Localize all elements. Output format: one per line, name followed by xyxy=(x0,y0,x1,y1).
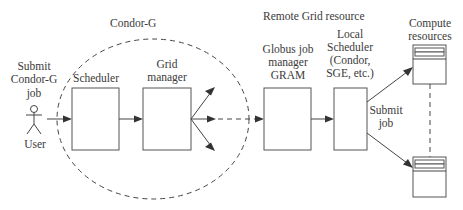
condor-g-label: Condor-G xyxy=(110,17,156,29)
globus-label-2: manager xyxy=(268,56,308,69)
globus-label: Globus job xyxy=(263,43,314,56)
globus-label-3: GRAM xyxy=(271,69,306,81)
arrow-head-icon xyxy=(205,87,215,96)
local-scheduler-label-2: Scheduler xyxy=(327,41,373,53)
submit-condor-g-label: Submit xyxy=(17,60,51,72)
submit-condor-g-label-2: Condor-G xyxy=(11,73,57,85)
grid-manager-box xyxy=(143,88,191,150)
arrow-head-icon xyxy=(134,116,143,123)
compute-resource-top xyxy=(413,45,446,84)
local-scheduler-label-3: (Condor, xyxy=(330,54,371,67)
scheduler-box xyxy=(72,88,119,150)
compute-resources-label-2: resources xyxy=(408,30,452,42)
local-scheduler-label-4: SGE, etc.) xyxy=(326,67,374,80)
arrow-head-icon xyxy=(63,116,72,123)
local-scheduler-label: Local xyxy=(337,28,363,40)
arrow-head-icon xyxy=(325,116,334,123)
compute-resources-label: Compute xyxy=(409,17,451,30)
arrow-head-icon xyxy=(205,143,215,152)
user-label: User xyxy=(24,138,46,150)
condor-g-diagram: Condor-G Submit Condor-G job User Schedu… xyxy=(0,0,463,210)
globus-gram-box xyxy=(264,88,311,150)
submit-job-label-2: job xyxy=(378,117,394,130)
local-scheduler-box xyxy=(334,88,367,150)
arrow-head-icon xyxy=(403,159,413,168)
submit-condor-g-label-3: job xyxy=(26,87,42,100)
submit-job-label: Submit xyxy=(369,104,403,116)
grid-manager-label: Grid xyxy=(156,58,177,70)
grid-manager-label-2: manager xyxy=(147,71,187,84)
arrow-head-icon xyxy=(207,116,216,123)
scheduler-label: Scheduler xyxy=(73,72,119,84)
arrow-head-icon xyxy=(255,116,264,123)
arrow-head-icon xyxy=(403,67,413,76)
user-icon xyxy=(26,106,42,135)
remote-grid-resource-label: Remote Grid resource xyxy=(263,10,365,22)
compute-resource-bottom xyxy=(413,157,446,197)
